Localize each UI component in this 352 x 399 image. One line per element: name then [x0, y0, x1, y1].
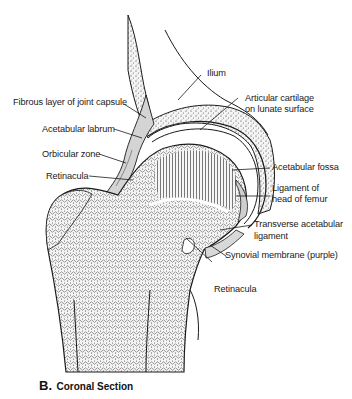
figure-caption: B. Coronal Section — [39, 376, 133, 394]
label-fibrous-layer: Fibrous layer of joint capsule — [13, 97, 127, 108]
label-ilium: Ilium — [207, 68, 226, 79]
label-articular-cartilage-line1: Articular cartilage — [245, 93, 314, 104]
label-acetabular-fossa: Acetabular fossa — [272, 162, 339, 173]
label-transverse-ligament-line1: Transverse acetabular — [254, 219, 343, 230]
caption-text: Coronal Section — [56, 381, 133, 392]
label-retinacula-left: Retinacula — [46, 171, 88, 182]
label-ligament-head-line2: head of femur — [272, 194, 327, 205]
label-acetabular-labrum: Acetabular labrum — [42, 124, 115, 135]
label-orbicular-zone: Orbicular zone — [42, 149, 100, 160]
label-synovial-membrane: Synovial membrane (purple) — [225, 250, 338, 261]
label-articular-cartilage-line2: on lunate surface — [245, 104, 314, 115]
caption-letter: B. — [39, 378, 52, 393]
label-retinacula-bottom: Retinacula — [214, 284, 256, 295]
label-ligament-head-line1: Ligament of — [272, 183, 319, 194]
label-transverse-ligament-line2: ligament — [254, 231, 288, 242]
